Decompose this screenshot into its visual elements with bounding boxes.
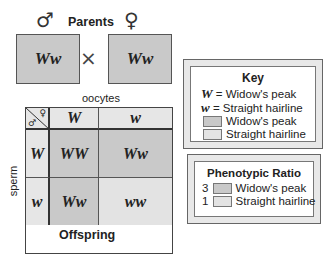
row-header-w: w	[26, 178, 50, 225]
ratio-label: Straight hairline	[236, 195, 316, 207]
ratio-label: Widow's peak	[236, 182, 307, 194]
key-allele-W: W = Widow's peak	[201, 87, 315, 101]
swatch-label: Straight hairline	[226, 128, 306, 140]
offspring-cell-WW: WW	[50, 130, 99, 178]
allele-symbol: w	[201, 100, 210, 115]
female-genotype-text: Ww	[127, 49, 153, 69]
recessive-swatch-icon	[213, 196, 232, 207]
corner-female-icon: ♀	[39, 108, 46, 118]
phenotypic-ratio-panel: Phenotypic Ratio 3 Widow's peak 1 Straig…	[187, 154, 321, 224]
dominant-swatch-icon	[213, 183, 232, 194]
column-header-w: w	[99, 108, 172, 130]
ratio-count: 3	[202, 182, 208, 194]
ratio-item-widows-peak: 3 Widow's peak	[202, 182, 313, 195]
key-title: Key	[191, 71, 315, 85]
equals-sign: =	[216, 88, 223, 100]
key-swatch-straight-hairline: Straight hairline	[201, 128, 315, 141]
allele-label: Straight hairline	[223, 102, 303, 114]
male-symbol-icon: ♂	[36, 10, 54, 30]
swatch-label: Widow's peak	[226, 115, 297, 127]
key-allele-w: w = Straight hairline	[201, 101, 315, 115]
equals-sign: =	[213, 102, 220, 114]
dominant-swatch-icon	[203, 116, 222, 127]
key-panel: Key W = Widow's peak w = Straight hairli…	[183, 59, 323, 149]
male-genotype-text: Ww	[35, 49, 61, 69]
row-header-W: W	[26, 130, 50, 178]
offspring-cell-ww: ww	[99, 178, 172, 225]
oocytes-label: oocytes	[82, 92, 120, 104]
ratio-item-straight-hairline: 1 Straight hairline	[202, 195, 313, 208]
parents-title: Parents	[68, 15, 114, 29]
cross-icon: ×	[80, 46, 97, 70]
female-symbol-icon: ♀	[124, 10, 139, 30]
column-header-W: W	[50, 108, 99, 130]
offspring-label: Offspring	[59, 228, 115, 242]
sperm-label: sperm	[7, 166, 19, 197]
allele-label: Widow's peak	[226, 88, 297, 100]
key-panel-inner: Key W = Widow's peak w = Straight hairli…	[190, 66, 316, 142]
ratio-count: 1	[202, 195, 208, 207]
offspring-cell-Ww-2: Ww	[50, 178, 99, 225]
male-parent-genotype: Ww	[16, 34, 80, 84]
allele-symbol: W	[201, 86, 213, 101]
corner-male-icon: ♂	[28, 118, 36, 128]
key-swatch-widows-peak: Widow's peak	[201, 115, 315, 128]
offspring-cell-Ww-1: Ww	[99, 130, 172, 178]
recessive-swatch-icon	[203, 129, 222, 140]
ratio-title: Phenotypic Ratio	[195, 167, 313, 179]
phenotypic-ratio-inner: Phenotypic Ratio 3 Widow's peak 1 Straig…	[194, 161, 314, 217]
female-parent-genotype: Ww	[108, 34, 172, 84]
punnett-corner: ♀ ♂	[26, 108, 50, 130]
